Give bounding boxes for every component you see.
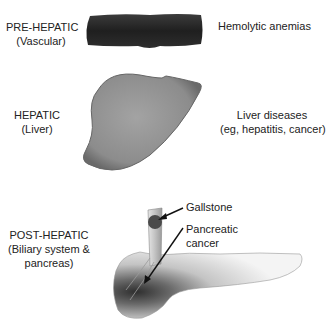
hepatic-cause: Liver diseases (eg, hepatitis, cancer) bbox=[220, 108, 324, 136]
pancreatic-cancer-line2: cancer bbox=[186, 236, 238, 250]
post-hepatic-label: POST-HEPATIC (Biliary system & pancreas) bbox=[6, 228, 92, 270]
post-hepatic-title: POST-HEPATIC bbox=[6, 228, 92, 242]
liver-icon bbox=[83, 74, 201, 170]
gallstone-icon bbox=[148, 215, 162, 229]
hepatic-title: HEPATIC bbox=[12, 108, 62, 122]
post-hepatic-subtitle-line2: pancreas) bbox=[6, 256, 92, 270]
pre-hepatic-cause: Hemolytic anemias bbox=[218, 19, 311, 33]
pancreas-icon bbox=[114, 252, 303, 318]
hepatic-cause-line2: (eg, hepatitis, cancer) bbox=[220, 122, 324, 136]
gallstone-label: Gallstone bbox=[186, 200, 232, 214]
hepatic-cause-line1: Liver diseases bbox=[220, 108, 324, 122]
pancreatic-cancer-line1: Pancreatic bbox=[186, 222, 238, 236]
hepatic-subtitle: (Liver) bbox=[12, 122, 62, 136]
hepatic-label: HEPATIC (Liver) bbox=[12, 108, 62, 136]
pre-hepatic-subtitle: (Vascular) bbox=[6, 34, 76, 48]
pre-hepatic-title: PRE-HEPATIC bbox=[6, 20, 76, 34]
post-hepatic-subtitle-line1: (Biliary system & bbox=[6, 242, 92, 256]
blood-vessel-icon bbox=[86, 14, 202, 48]
pre-hepatic-label: PRE-HEPATIC (Vascular) bbox=[6, 20, 76, 48]
diagram-artwork bbox=[0, 0, 327, 335]
pancreatic-cancer-label: Pancreatic cancer bbox=[186, 222, 238, 250]
